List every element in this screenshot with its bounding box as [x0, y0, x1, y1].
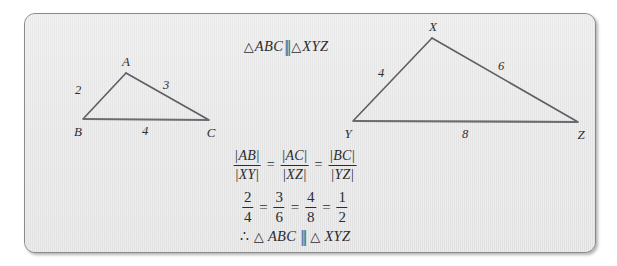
segment-ab	[83, 73, 126, 119]
proportion-numbers-row: 2 4 = 3 6 = 4 8 = 1 2	[240, 189, 349, 225]
similarity-left-name: ABC	[255, 38, 283, 55]
similarity-right-name: XYZ	[302, 38, 328, 55]
fraction-bar	[328, 165, 356, 166]
triangle-symbol-left: △	[254, 229, 265, 245]
fraction-numerator: 3	[276, 189, 284, 205]
segment-xy	[353, 38, 432, 121]
fraction-numerator: BC	[328, 148, 356, 163]
fraction-denominator: 2	[338, 209, 346, 225]
fraction-bar	[337, 207, 348, 208]
fraction-numerator: 1	[338, 189, 346, 205]
triangle-symbol-right: △	[310, 229, 321, 245]
fraction-bar	[242, 207, 253, 208]
side-length-yz: 8	[462, 128, 468, 141]
fraction-numerator: AC	[281, 148, 309, 163]
equals-sign: =	[318, 199, 334, 216]
triangle-symbol-right: △	[291, 39, 302, 55]
vertex-label-c: C	[207, 126, 216, 139]
side-length-xz: 6	[498, 60, 504, 73]
fraction-denominator: XY	[234, 167, 260, 182]
conclusion-statement: ∴ △ ABC ||| △ XYZ	[240, 228, 351, 245]
fraction-bc-over-yz: BC YZ	[328, 148, 356, 182]
segment-yz	[353, 121, 578, 122]
side-length-xy: 4	[378, 67, 384, 80]
segment-xz	[432, 38, 578, 122]
triangle-abc-shape	[83, 73, 209, 120]
fraction-denominator: 8	[307, 209, 315, 225]
similar-symbol: |||	[299, 227, 307, 247]
fraction-bar	[274, 207, 285, 208]
fraction-bar	[281, 165, 309, 166]
side-length-ab: 2	[75, 84, 81, 97]
similarity-statement: △ ABC ||| △ XYZ	[244, 38, 329, 55]
triangle-xyz-shape	[353, 38, 578, 122]
vertex-label-b: B	[74, 125, 82, 138]
fraction-ac-over-xz: AC XZ	[281, 148, 309, 182]
fraction-2-over-4: 2 4	[242, 189, 253, 225]
triangle-symbol-left: △	[244, 39, 255, 55]
fraction-ab-over-xy: AB XY	[234, 148, 261, 182]
side-length-ac: 3	[163, 79, 169, 92]
segment-bc	[83, 119, 209, 120]
fraction-bar	[305, 207, 316, 208]
side-length-bc: 4	[142, 125, 148, 138]
fraction-1-over-2: 1 2	[337, 189, 348, 225]
fraction-numerator: AB	[234, 148, 261, 163]
vertex-label-a: A	[122, 55, 130, 68]
equals-sign: =	[287, 199, 303, 216]
equals-sign: =	[263, 157, 279, 173]
equals-sign: =	[311, 157, 327, 173]
vertex-label-y: Y	[344, 127, 351, 140]
figure-screenshot: A B C 2 3 4 X Y Z 4 6 8 △ ABC ||| △ XYZ …	[0, 0, 617, 266]
equals-sign: =	[255, 199, 271, 216]
fraction-denominator: 6	[276, 209, 284, 225]
fraction-numerator: 2	[244, 189, 252, 205]
fraction-bar	[234, 165, 261, 166]
fraction-denominator: XZ	[281, 167, 307, 182]
conclusion-right-name: XYZ	[324, 228, 350, 245]
similar-symbol: |||	[283, 37, 291, 57]
fraction-4-over-8: 4 8	[305, 189, 316, 225]
therefore-symbol: ∴	[240, 228, 251, 245]
fraction-denominator: 4	[244, 209, 252, 225]
vertex-label-z: Z	[577, 128, 584, 141]
fraction-denominator: YZ	[330, 167, 356, 182]
fraction-numerator: 4	[307, 189, 315, 205]
fraction-3-over-6: 3 6	[274, 189, 285, 225]
proportion-letters-row: AB XY = AC XZ = BC YZ	[232, 148, 359, 182]
vertex-label-x: X	[429, 20, 437, 33]
conclusion-left-name: ABC	[268, 228, 296, 245]
